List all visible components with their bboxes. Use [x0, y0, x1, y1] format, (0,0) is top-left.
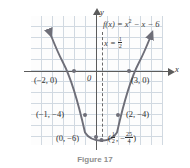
origin-label: 0 [87, 74, 91, 83]
y-axis-label: y [100, 7, 104, 17]
fraction-denominator: 2 [118, 43, 122, 49]
vertex-x-fraction: 1 2 [111, 131, 115, 145]
vertex-x-denominator: 2 [111, 138, 115, 144]
dot-x-intercept-left [72, 69, 76, 73]
function-equation-suffix: − x − 6 [132, 19, 160, 29]
vertex-paren-close: ) [133, 133, 136, 143]
label-point-left: (−1, −4) [36, 110, 64, 119]
vertex-comma: , − [116, 133, 125, 143]
label-x-intercept-left: (−2, 0) [34, 76, 57, 85]
label-vertex: ( 1 2 , − 25 4 ) [108, 131, 136, 145]
label-x-intercept-right: (3, 0) [131, 76, 149, 85]
label-point-right: (2, −4) [126, 110, 149, 119]
vertex-y-denominator: 4 [125, 138, 132, 144]
function-equation-label: f(x) = x2 − x − 6 [103, 19, 160, 29]
figure-parabola: x y 0 f(x) = x2 − x − 6 x = 1 2 (−2, 0) … [0, 0, 190, 168]
label-y-intercept: (0, −6) [56, 134, 79, 143]
axis-of-symmetry-fraction: 1 2 [118, 36, 122, 50]
figure-caption: Figure 17 [0, 155, 190, 168]
axis-of-symmetry-label: x = 1 2 [104, 36, 123, 50]
vertex-y-fraction: 25 4 [125, 131, 132, 145]
parabola-curve [0, 0, 190, 168]
dot-x-intercept-right [127, 69, 131, 73]
function-equation-prefix: f(x) = x [103, 19, 129, 29]
dot-point-left [83, 113, 87, 117]
dot-y-intercept [94, 135, 98, 139]
x-axis-label: x [175, 64, 179, 74]
dot-point-right [116, 113, 120, 117]
dot-vertex [100, 138, 104, 142]
axis-of-symmetry-prefix: x = [104, 38, 118, 48]
